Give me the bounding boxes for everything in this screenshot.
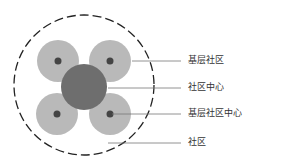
dot-bottom-left <box>54 111 61 118</box>
community-structure-diagram <box>0 0 299 167</box>
label-basic-community-center: 基层社区中心 <box>188 108 242 119</box>
dot-top-left <box>55 58 62 65</box>
label-community-center: 社区中心 <box>188 82 224 93</box>
center-circle <box>61 64 107 110</box>
label-basic-community: 基层社区 <box>188 55 224 66</box>
dot-top-right <box>107 58 114 65</box>
label-community: 社区 <box>188 137 206 148</box>
